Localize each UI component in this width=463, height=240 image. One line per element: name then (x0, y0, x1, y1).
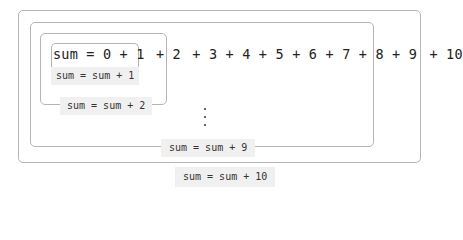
expr-part-plus-2: + 2 (148, 46, 181, 62)
sum-expression: sum = 0 + 1 + 2 + 3 + 4 + 5 + 6 + 7 + 8 … (53, 46, 463, 62)
label-step-2: sum = sum + 2 (60, 97, 152, 115)
expr-part-plus-10: + 10 (421, 46, 463, 62)
label-step-1: sum = sum + 1 (51, 67, 139, 85)
label-step-9: sum = sum + 9 (161, 139, 255, 157)
label-step-10: sum = sum + 10 (175, 167, 275, 187)
expr-part-initial: sum = 0 + 1 (53, 46, 145, 62)
ellipsis-dot (204, 116, 206, 118)
expr-part-middle: + 3 + 4 + 5 + 6 + 7 + 8 + 9 (184, 46, 417, 62)
ellipsis-dot (204, 124, 206, 126)
ellipsis-dot (204, 108, 206, 110)
